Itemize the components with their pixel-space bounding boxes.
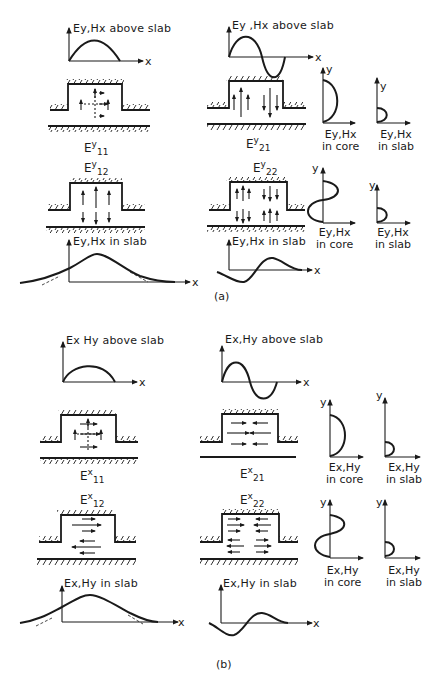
label-b-core-bottom: Ex,Hyin core — [324, 565, 361, 589]
profile-a-core-top — [323, 68, 355, 123]
mode-base: E — [84, 141, 92, 155]
axis-x-label: x — [315, 52, 322, 64]
mode-label-E11y: Ey11 — [84, 138, 108, 158]
axis-x-label: x — [303, 377, 310, 389]
mode-sub: 21 — [253, 473, 264, 483]
label-line: in core — [322, 141, 359, 153]
profile-b-slab-bottom — [385, 500, 420, 558]
label-a-left-above-slab: Ey,Hx above slab — [73, 23, 171, 35]
waveguide-a-12 — [46, 178, 145, 233]
axis-x-label: x — [178, 617, 185, 629]
mode-label-E11x: Ex11 — [80, 466, 104, 486]
mode-sub: 22 — [253, 499, 264, 509]
plot-b-right-above-slab — [222, 346, 301, 399]
waveguide-b-11 — [40, 410, 138, 464]
label-line: in core — [324, 577, 361, 589]
label-a-slab-top: Ey,Hxin slab — [378, 129, 414, 153]
label-b-left-above-slab: Ex Hy above slab — [66, 335, 164, 347]
mode-label-E22y: Ey22 — [253, 158, 277, 178]
axis-y-label: y — [369, 180, 376, 192]
plot-b-left-in-slab — [20, 586, 178, 626]
caption-a: (a) — [214, 290, 229, 303]
label-b-right-in-slab: Ex,Hy in slab — [223, 578, 297, 590]
label-line: in slab — [375, 239, 411, 251]
plot-a-right-above-slab — [229, 27, 313, 77]
label-b-core-top: Ex,Hyin core — [326, 462, 363, 486]
label-b-slab-bottom: Ex,Hyin slab — [386, 565, 422, 589]
label-a-right-above-slab: Ey ,Hx above slab — [232, 20, 334, 32]
mode-sub: 12 — [97, 167, 108, 177]
label-a-right-in-slab: Ey,Hx in slab — [232, 236, 306, 248]
label-b-slab-top: Ex,Hyin slab — [386, 462, 422, 486]
label-line: in slab — [378, 141, 414, 153]
axis-y-label: y — [380, 81, 387, 93]
waveguide-b-21 — [200, 409, 298, 457]
axis-y-label: y — [376, 390, 383, 402]
axis-y-label: y — [320, 397, 327, 409]
label-line: in slab — [386, 577, 422, 589]
axis-x-label: x — [313, 618, 320, 630]
mode-base: E — [80, 469, 88, 483]
plot-b-left-above-slab — [63, 342, 137, 382]
axis-x-label: x — [139, 377, 146, 389]
mode-sub: 21 — [259, 143, 270, 153]
axis-y-label: y — [320, 497, 327, 509]
waveguide-a-21 — [207, 76, 306, 130]
waveguide-a-11 — [48, 79, 150, 132]
axis-x-label: x — [192, 277, 199, 289]
mode-label-E12x: Ex12 — [80, 490, 104, 510]
mode-label-E21x: Ex21 — [240, 464, 264, 484]
mode-label-E22x: Ex22 — [240, 490, 264, 510]
mode-sub: 11 — [97, 147, 108, 157]
waveguide-b-12 — [37, 510, 136, 565]
mode-base: E — [80, 493, 88, 507]
profile-a-slab-bottom — [377, 185, 410, 223]
label-a-left-in-slab: Ey,Hx in slab — [73, 236, 147, 248]
mode-base: E — [240, 467, 248, 481]
axis-y-label: y — [326, 64, 333, 76]
mode-base: E — [253, 161, 261, 175]
label-a-slab-bottom: Ey,Hxin slab — [375, 227, 411, 251]
axis-x-label: x — [145, 56, 152, 68]
axis-y-label: y — [376, 497, 383, 509]
waveguide-a-22 — [207, 177, 305, 232]
label-line: in slab — [386, 474, 422, 486]
mode-base: E — [240, 493, 248, 507]
mode-sub: 11 — [93, 475, 104, 485]
mode-label-E21y: Ey21 — [246, 134, 270, 154]
label-a-core-top: Ey,Hxin core — [322, 129, 359, 153]
axis-y-label: y — [312, 163, 319, 175]
mode-label-E12y: Ey12 — [84, 158, 108, 178]
profile-a-core-bottom — [308, 168, 355, 223]
mode-base: E — [246, 137, 254, 151]
label-line: in core — [316, 239, 353, 251]
mode-sub: 12 — [93, 499, 104, 509]
axis-x-label: x — [314, 265, 321, 277]
waveguide-b-22 — [200, 509, 298, 565]
label-line: in core — [326, 474, 363, 486]
profile-b-slab-top — [385, 398, 420, 457]
mode-base: E — [84, 161, 92, 175]
plot-b-right-in-slab — [209, 585, 312, 635]
label-b-right-above-slab: Ex,Hy above slab — [225, 334, 323, 346]
label-a-core-bottom: Ey,Hxin core — [316, 227, 353, 251]
profile-b-core-top — [330, 400, 363, 457]
mode-sub: 22 — [266, 167, 277, 177]
caption-b: (b) — [216, 658, 232, 671]
label-b-left-in-slab: Ex,Hy in slab — [64, 578, 138, 590]
